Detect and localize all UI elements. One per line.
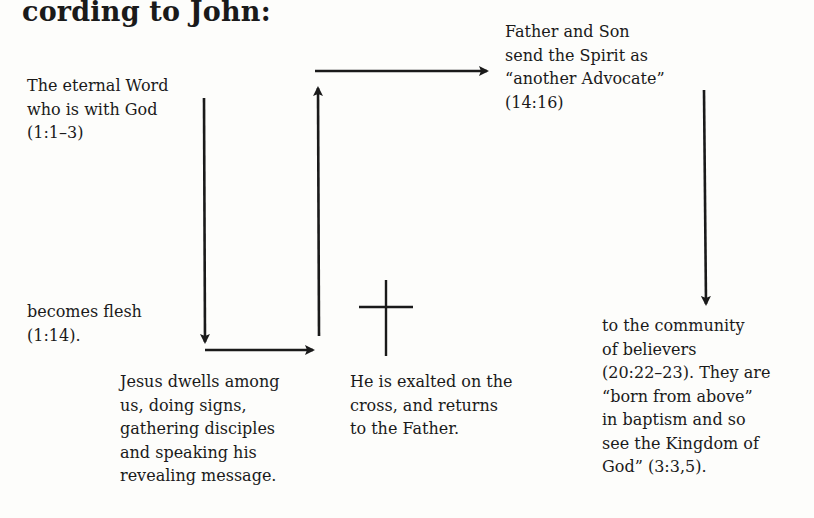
flow-arrows <box>0 0 814 518</box>
arrow-down-spirit-to-community <box>704 90 706 304</box>
arrow-up-to-father <box>318 88 319 336</box>
arrow-down-word-to-flesh <box>204 98 205 342</box>
cross-icon <box>359 280 413 356</box>
